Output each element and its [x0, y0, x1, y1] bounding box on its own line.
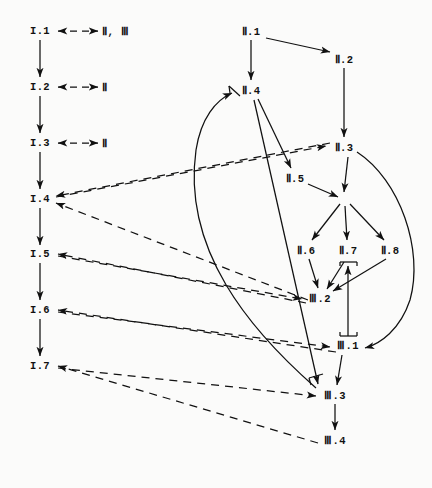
node-ii-8[interactable]: Ⅱ.8	[380, 244, 401, 257]
node-ii-6[interactable]: Ⅱ.6	[296, 244, 317, 257]
edge-ii4-to-iii3	[254, 100, 323, 385]
xref-label-i-3: Ⅱ	[101, 137, 108, 150]
node-i-4[interactable]: I.4	[29, 193, 51, 205]
node-i-6[interactable]: I.6	[29, 304, 51, 316]
node-i-2[interactable]: I.2	[29, 81, 51, 93]
node-i-3[interactable]: I.3	[29, 137, 51, 149]
xref-label-i-1: Ⅱ, Ⅲ	[101, 25, 130, 38]
xref-label-i-2: Ⅱ	[101, 81, 108, 94]
node-ii-5[interactable]: Ⅱ.5	[285, 172, 306, 185]
node-ii-2[interactable]: Ⅱ.2	[334, 53, 355, 66]
edge-dashed-to-column-one	[56, 143, 336, 443]
node-i-7[interactable]: I.7	[29, 360, 51, 372]
edge-phase-two	[251, 38, 384, 240]
node-ii-4[interactable]: Ⅱ.4	[241, 84, 262, 97]
node-ii-3[interactable]: Ⅱ.3	[334, 141, 355, 154]
node-i-1[interactable]: I.1	[29, 25, 51, 37]
diagram-edges	[0, 0, 432, 488]
node-ii-7[interactable]: Ⅱ.7	[338, 244, 359, 257]
node-iii-4[interactable]: Ⅲ.4	[323, 434, 347, 447]
edge-iii1-to-ii7	[340, 262, 357, 336]
node-iii-2[interactable]: Ⅲ.2	[308, 292, 332, 305]
diagram-canvas: I.1 I.2 I.3 I.4 I.5 I.6 I.7 Ⅱ.1 Ⅱ.2 Ⅱ.3 …	[0, 0, 432, 488]
node-iii-3[interactable]: Ⅲ.3	[323, 389, 347, 402]
edge-xrefs	[58, 31, 98, 143]
node-ii-1[interactable]: Ⅱ.1	[241, 25, 262, 38]
node-iii-1[interactable]: Ⅲ.1	[336, 339, 360, 352]
node-i-5[interactable]: I.5	[29, 248, 51, 260]
